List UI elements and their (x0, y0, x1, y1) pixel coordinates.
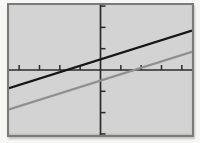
page-background (0, 0, 200, 143)
plot-area (9, 5, 192, 135)
graph-plot (0, 0, 200, 143)
